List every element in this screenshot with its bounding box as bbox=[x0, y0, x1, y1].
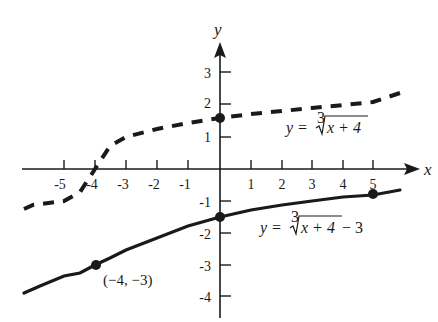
y-tick-labels: 3 2 1 -1 -2 -3 -4 bbox=[199, 66, 211, 305]
x-tick-label: -2 bbox=[148, 177, 160, 192]
point-label: (−4, −3) bbox=[103, 272, 152, 289]
y-tick-label: -4 bbox=[199, 290, 211, 305]
x-tick-label: 3 bbox=[309, 177, 316, 192]
x-axis-label: x bbox=[423, 160, 432, 179]
y-ticks bbox=[220, 72, 231, 296]
y-tick-label: 1 bbox=[204, 130, 211, 145]
y-tick-label: -3 bbox=[199, 259, 211, 274]
y-tick-label: -1 bbox=[199, 195, 211, 210]
point-marker bbox=[368, 189, 378, 199]
equation-label-shifted: y = 3 x + 4 − 3 bbox=[258, 208, 363, 237]
y-tick-label: 2 bbox=[204, 96, 211, 111]
x-tick-label: -3 bbox=[117, 177, 129, 192]
y-tick-label: 3 bbox=[204, 66, 211, 81]
x-tick-label: 2 bbox=[279, 177, 286, 192]
y-axis-label: y bbox=[212, 20, 222, 39]
graph-figure: x y -5 -4 -3 -2 -1 1 2 3 4 5 bbox=[0, 0, 438, 322]
point-marker bbox=[215, 212, 225, 222]
radicand: x + 4 bbox=[300, 219, 335, 236]
solid-curve-shifted bbox=[24, 190, 400, 293]
radicand: x + 4 bbox=[326, 119, 361, 136]
point-marker bbox=[215, 113, 225, 123]
y-tick-label: -2 bbox=[199, 227, 211, 242]
equation-label-parent: y = 3 x + 4 bbox=[284, 109, 368, 137]
point-marker bbox=[91, 260, 101, 270]
graph-svg: x y -5 -4 -3 -2 -1 1 2 3 4 5 bbox=[0, 0, 438, 322]
x-ticks bbox=[64, 160, 373, 169]
x-tick-label: 1 bbox=[248, 177, 255, 192]
x-tick-label: 4 bbox=[340, 177, 347, 192]
x-tick-labels: -5 -4 -3 -2 -1 1 2 3 4 5 bbox=[54, 177, 376, 192]
x-tick-label: -4 bbox=[86, 177, 98, 192]
eq-prefix: y = bbox=[284, 119, 308, 137]
eq-prefix: y = bbox=[258, 219, 282, 237]
x-tick-label: -1 bbox=[179, 177, 191, 192]
x-tick-label: -5 bbox=[54, 177, 66, 192]
eq-suffix: − 3 bbox=[342, 219, 363, 236]
